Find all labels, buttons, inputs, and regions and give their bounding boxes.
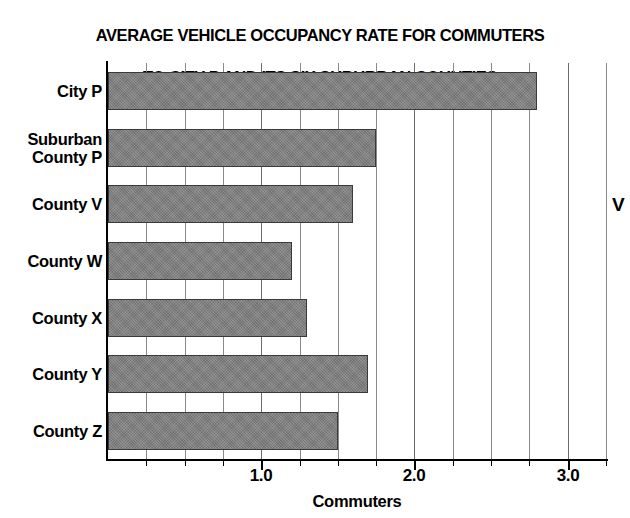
y-axis-tick-label: County V — [0, 195, 102, 213]
y-axis-tick-label-line: County V — [0, 195, 102, 213]
x-tick-minor — [185, 461, 186, 466]
bar — [108, 72, 537, 110]
x-axis-title: Commuters — [108, 492, 606, 511]
x-tick-minor — [491, 461, 492, 466]
y-axis-tick-label: County Z — [0, 422, 102, 440]
gridline-minor — [606, 63, 607, 459]
x-axis-tick-label: 3.0 — [538, 466, 598, 486]
plot-area — [108, 63, 606, 459]
y-axis-tick-label: SuburbanCounty P — [0, 130, 102, 166]
x-axis-tick-label: 1.0 — [231, 466, 291, 486]
x-tick-minor — [453, 461, 454, 466]
x-tick-minor — [223, 461, 224, 466]
x-tick-minor — [338, 461, 339, 466]
y-axis-tick-label-line: County Z — [0, 422, 102, 440]
x-tick-minor — [606, 461, 607, 466]
x-axis-tick-label: 2.0 — [384, 466, 444, 486]
y-axis-tick-label: County W — [0, 252, 102, 270]
bar — [108, 412, 338, 450]
x-axis-line — [106, 459, 608, 461]
bar-chart: AVERAGE VEHICLE OCCUPANCY RATE FOR COMMU… — [0, 0, 630, 518]
bar — [108, 355, 368, 393]
y-axis-tick-label-line: Suburban — [0, 130, 102, 148]
y-axis-tick-label: County X — [0, 309, 102, 327]
y-axis-tick-label-line: County X — [0, 309, 102, 327]
y-axis-tick-label: County Y — [0, 365, 102, 383]
y-axis-tick-label-line: County Y — [0, 365, 102, 383]
bar — [108, 299, 307, 337]
bar — [108, 185, 353, 223]
edge-artifact-glyph: V — [612, 194, 628, 216]
x-tick-minor — [300, 461, 301, 466]
chart-title-line-1: AVERAGE VEHICLE OCCUPANCY RATE FOR COMMU… — [40, 25, 600, 46]
x-tick-minor — [529, 461, 530, 466]
y-axis-tick-label-line: County W — [0, 252, 102, 270]
y-axis-line — [106, 61, 108, 461]
bar — [108, 129, 376, 167]
y-axis-tick-label-line: County P — [0, 148, 102, 166]
bars-group — [108, 63, 606, 459]
y-axis-tick-label-line: City P — [0, 82, 102, 100]
x-tick-minor — [146, 461, 147, 466]
y-axis-tick-label: City P — [0, 82, 102, 100]
bar — [108, 242, 292, 280]
x-tick-minor — [376, 461, 377, 466]
